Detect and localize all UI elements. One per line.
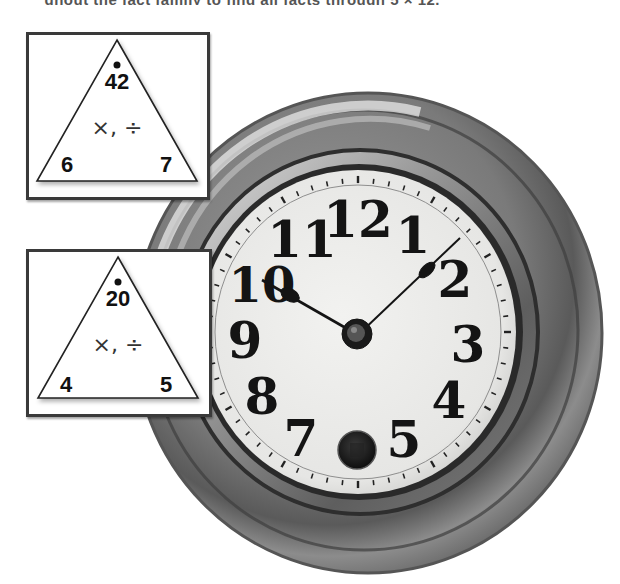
triangle-top-number: 42 [105, 69, 129, 94]
triangle-top-number: 20 [106, 286, 130, 311]
numeral-5: 5 [387, 410, 422, 469]
triangle-bottom-left-number: 6 [61, 152, 73, 177]
triangle-bottom-right-number: 7 [160, 152, 172, 177]
numeral-9: 9 [228, 311, 263, 370]
triangle-bottom-right-number: 5 [160, 372, 172, 397]
triangle-operations: ×, ÷ [93, 332, 144, 357]
numeral-4: 4 [432, 371, 467, 430]
fact-triangle-card-1: 42 ×, ÷ 6 7 [26, 32, 210, 200]
triangle-operations: ×, ÷ [92, 115, 143, 140]
fact-triangle-card-2: 20 ×, ÷ 4 5 [26, 249, 212, 417]
numeral-2: 2 [438, 250, 473, 309]
top-dot-icon [115, 279, 122, 286]
winding-knob [338, 431, 376, 469]
numeral-8: 8 [245, 367, 280, 426]
numeral-3: 3 [451, 315, 486, 374]
top-dot-icon [114, 62, 121, 69]
numeral-1: 1 [396, 206, 431, 265]
numeral-11: 11 [267, 210, 337, 269]
center-hub [342, 319, 372, 349]
triangle-bottom-left-number: 4 [60, 372, 73, 397]
numeral-7: 7 [284, 409, 319, 468]
